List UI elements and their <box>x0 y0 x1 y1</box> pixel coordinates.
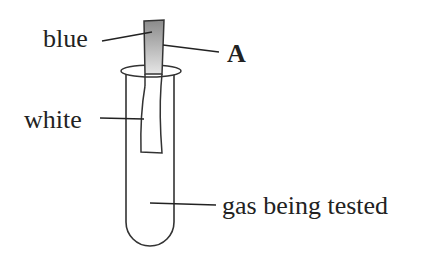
label-blue: blue <box>43 24 88 53</box>
white-strip-section <box>141 86 162 153</box>
leader-line-white <box>100 118 144 119</box>
diagram-canvas: blue A white gas being tested <box>0 0 437 269</box>
label-white: white <box>24 105 82 134</box>
leader-line-a <box>163 45 219 52</box>
leader-line-gas <box>150 203 216 205</box>
label-a: A <box>227 39 246 68</box>
label-gas-being-tested: gas being tested <box>222 191 388 220</box>
